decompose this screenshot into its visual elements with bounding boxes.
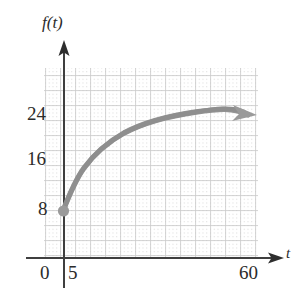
y-axis-label: f(t)	[42, 14, 63, 31]
y-tick-label-16: 16	[27, 149, 46, 168]
x-tick-label-5: 5	[68, 263, 78, 282]
x-axis-label: t	[286, 246, 290, 261]
curve-start-point	[58, 205, 69, 216]
y-tick-label-8: 8	[38, 199, 48, 218]
x-tick-label-60: 60	[239, 263, 258, 282]
y-tick-label-24: 24	[27, 104, 46, 123]
chart-grid	[44, 68, 258, 258]
chart-figure: f(t) t 24 16 8 0 5 60	[0, 0, 303, 299]
x-tick-label-0: 0	[40, 263, 50, 282]
